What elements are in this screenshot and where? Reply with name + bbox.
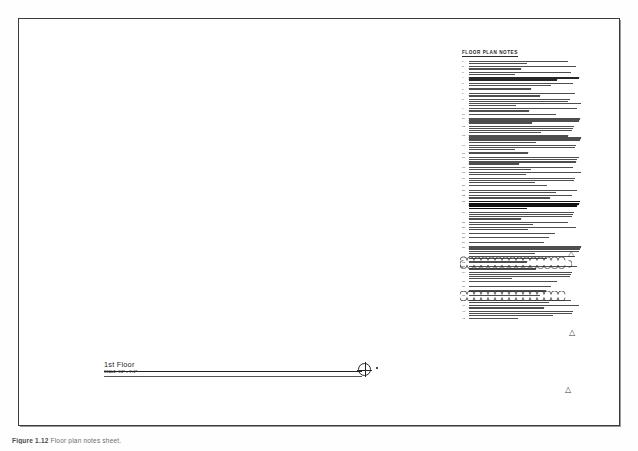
note-item: 21.	[462, 190, 582, 193]
note-text	[469, 178, 582, 183]
note-text	[469, 281, 582, 284]
note-text-line	[469, 126, 574, 127]
note-item: 22.	[462, 195, 582, 198]
note-text-line	[469, 251, 579, 252]
note-text-line	[469, 190, 577, 191]
note-text-line	[469, 205, 577, 207]
note-text-line	[469, 286, 551, 287]
note-item: 40.	[462, 305, 582, 308]
note-text	[469, 172, 582, 175]
note-text	[469, 295, 582, 298]
note-text	[469, 286, 582, 289]
plan-title: 1st Floor	[104, 360, 374, 369]
note-text-line	[469, 180, 574, 181]
note-text	[469, 237, 582, 240]
note-text	[469, 83, 582, 86]
note-number: 15.	[462, 152, 469, 155]
note-number: 17.	[462, 167, 469, 170]
note-text	[469, 93, 582, 96]
note-number: 25.	[462, 222, 469, 225]
note-text-line	[469, 88, 531, 89]
note-number: 5.	[462, 83, 469, 86]
note-text-line	[469, 229, 528, 230]
note-text	[469, 246, 582, 254]
title-rule-secondary	[104, 376, 362, 377]
note-text	[469, 233, 582, 236]
note-text-line	[469, 311, 573, 312]
note-text-line	[469, 272, 572, 273]
note-text-line	[469, 248, 580, 249]
note-text-line	[469, 237, 549, 238]
note-text	[469, 72, 582, 75]
floor-plan-notes-column: FLOOR PLAN NOTES 1.2.3.4.5.6.7.8.9.10.11…	[462, 40, 582, 323]
note-text-line	[469, 295, 540, 296]
marker-horizontal-line	[357, 370, 372, 371]
note-text-line	[469, 128, 573, 129]
note-text	[469, 145, 582, 150]
note-item: 34.	[462, 272, 582, 280]
note-text	[469, 190, 582, 193]
note-text	[469, 311, 582, 316]
note-text-line	[469, 274, 571, 275]
note-item: 24.	[462, 212, 582, 220]
note-text-line	[469, 110, 529, 111]
note-item: 29.	[462, 242, 582, 245]
note-number: 42.	[462, 318, 469, 321]
note-text-line	[469, 192, 556, 193]
note-item: 39.	[462, 300, 582, 303]
note-text	[469, 135, 582, 143]
note-text-line	[469, 72, 571, 73]
note-text-line	[469, 302, 549, 303]
note-number: 20.	[462, 185, 469, 188]
notes-title: FLOOR PLAN NOTES	[462, 50, 518, 57]
note-number: 16.	[462, 157, 469, 165]
note-number: 37.	[462, 290, 469, 293]
drawing-sheet: FLOOR PLAN NOTES 1.2.3.4.5.6.7.8.9.10.11…	[0, 0, 638, 451]
note-number: 12.	[462, 126, 469, 134]
note-text-line	[469, 68, 521, 69]
note-item: 19.	[462, 178, 582, 183]
note-text	[469, 266, 582, 269]
note-number: 11.	[462, 118, 469, 123]
note-text	[469, 261, 582, 264]
note-number: 24.	[462, 212, 469, 220]
note-text	[469, 300, 582, 303]
note-text-line	[469, 281, 557, 282]
note-text-line	[469, 167, 573, 168]
note-text-line	[469, 114, 556, 115]
note-text	[469, 201, 582, 210]
note-text-line	[469, 208, 527, 210]
note-number: 32.	[462, 261, 469, 264]
note-text-line	[469, 79, 557, 81]
note-text	[469, 222, 582, 225]
note-number: 27.	[462, 233, 469, 236]
note-text-line	[469, 258, 547, 259]
note-item: 15.	[462, 152, 582, 155]
note-number: 36.	[462, 286, 469, 289]
note-item: 9.	[462, 108, 582, 111]
note-number: 21.	[462, 190, 469, 193]
note-number: 30.	[462, 246, 469, 254]
note-item: 28.	[462, 237, 582, 240]
note-item: 26.	[462, 227, 582, 230]
note-number: 31.	[462, 256, 469, 259]
note-text	[469, 167, 582, 170]
note-text	[469, 227, 582, 230]
note-item: 35.	[462, 281, 582, 284]
note-number: 26.	[462, 227, 469, 230]
note-item: 13.	[462, 135, 582, 143]
note-text-line	[469, 290, 546, 291]
note-number: 13.	[462, 135, 469, 143]
note-text-line	[469, 139, 580, 140]
note-text-line	[469, 185, 547, 186]
note-text-line	[469, 253, 535, 254]
note-text-line	[469, 218, 521, 219]
note-text-line	[469, 142, 536, 143]
note-item: 14.	[462, 145, 582, 150]
note-text-line	[469, 74, 515, 75]
note-text-line	[469, 174, 526, 175]
note-text-line	[469, 178, 575, 179]
note-item: 16.	[462, 157, 582, 165]
note-text	[469, 305, 582, 308]
revision-delta-icon-2: △	[569, 329, 575, 337]
